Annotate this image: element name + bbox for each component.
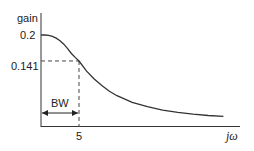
y-tick-label-0.141: 0.141 bbox=[11, 60, 39, 72]
gain-chart: gain 0.2 0.141 5 jω BW bbox=[0, 0, 254, 151]
x-tick-label-5: 5 bbox=[76, 130, 82, 142]
x-axis-label: jω bbox=[224, 129, 238, 143]
y-axis-label: gain bbox=[17, 12, 38, 24]
bandwidth-label: BW bbox=[51, 97, 69, 109]
y-tick-label-0.2: 0.2 bbox=[20, 29, 35, 41]
